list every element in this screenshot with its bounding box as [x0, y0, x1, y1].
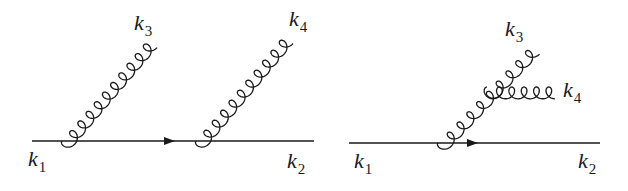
gluon-line: [195, 40, 293, 147]
momentum-label-k2: k2: [578, 148, 596, 177]
momentum-label-k3: k3: [505, 16, 523, 45]
gluon-line: [484, 87, 555, 99]
momentum-label-k4: k4: [563, 77, 582, 106]
arrow-icon: [467, 139, 478, 147]
diagram-right: k3k4k1k2: [349, 16, 600, 177]
momentum-label-k1: k1: [28, 146, 46, 175]
gluon-line: [437, 50, 539, 149]
momentum-label-k4: k4: [289, 6, 308, 35]
momentum-label-k3: k3: [134, 10, 152, 39]
momentum-label-k1: k1: [354, 148, 372, 177]
momentum-label-k2: k2: [287, 148, 305, 177]
feynman-diagram-figure: k3k4k1k2 k3k4k1k2: [0, 0, 628, 191]
gluon-line: [61, 44, 157, 147]
diagram-left: k3k4k1k2: [28, 6, 314, 177]
arrow-icon: [164, 137, 175, 145]
